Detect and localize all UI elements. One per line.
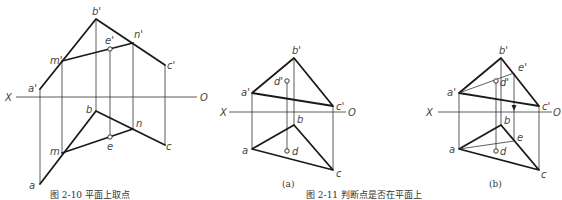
label-a: a <box>29 180 35 191</box>
label-a: a <box>242 145 248 156</box>
front-view-outline <box>40 19 165 89</box>
label-e: e <box>517 132 523 143</box>
label-b-prime: b' <box>292 45 301 56</box>
label-n-prime: n' <box>134 29 143 40</box>
label-c: c <box>166 141 172 152</box>
label-c-prime: c' <box>336 101 344 112</box>
label-d: d <box>500 146 507 157</box>
label-b: b <box>504 115 510 126</box>
label-c-prime: c' <box>167 60 175 71</box>
point-e <box>108 135 112 139</box>
label-a-prime: a' <box>447 87 456 98</box>
axis-label-x: X <box>4 92 13 103</box>
point-d <box>285 149 289 153</box>
projection-diagrams: X b' m' a' e' n' c' b n c e m a 图 2-10 平… <box>0 0 562 200</box>
label-n: n <box>136 118 142 129</box>
front-line-mn <box>62 43 133 61</box>
label-c: c <box>336 168 342 179</box>
label-e-prime: e' <box>518 62 527 73</box>
label-c: c <box>541 169 547 180</box>
label-b: b <box>297 114 303 125</box>
label-d: d <box>292 146 299 157</box>
axis-label-x: X <box>425 107 434 118</box>
label-a: a <box>449 144 455 155</box>
figure-2-11a: X O b' a' c' d' b a c d (a) <box>219 45 356 189</box>
point-d <box>494 149 498 153</box>
axis-label-o: O <box>348 107 356 118</box>
sub-caption-b: (b) <box>489 179 502 189</box>
label-d-prime: d' <box>500 77 509 88</box>
caption-fig-2-10: 图 2-10 平面上取点 <box>50 190 130 200</box>
point-e-prime <box>108 47 112 51</box>
label-e-prime: e' <box>105 35 114 46</box>
axis-label-x: X <box>219 107 228 118</box>
label-m: m <box>50 146 60 157</box>
label-m-prime: m' <box>50 55 63 66</box>
front-view-triangle <box>459 58 539 106</box>
point-d-prime <box>285 79 289 83</box>
label-c-prime: c' <box>542 101 550 112</box>
caption-fig-2-11: 图 2-11 判断点是否在平面上 <box>306 189 422 200</box>
arrow-down-icon <box>512 105 517 111</box>
front-view-triangle <box>252 58 333 106</box>
label-b: b <box>86 104 92 115</box>
figure-2-10: X b' m' a' e' n' c' b n c e m a 图 2-10 平… <box>4 6 197 200</box>
point-d-prime <box>494 79 498 83</box>
axis-label-o: O <box>553 107 561 118</box>
label-b-prime: b' <box>499 45 508 56</box>
label-d-prime: d' <box>274 76 283 87</box>
axis-label-o-stray: O <box>200 92 208 103</box>
sub-caption-a: (a) <box>282 179 294 189</box>
label-e: e <box>107 141 113 152</box>
label-b-prime: b' <box>92 6 101 17</box>
figure-2-11b: X O b' e' a' d' c' b e a d c (b) <box>425 45 561 189</box>
label-a-prime: a' <box>241 87 250 98</box>
label-a-prime: a' <box>28 83 37 94</box>
